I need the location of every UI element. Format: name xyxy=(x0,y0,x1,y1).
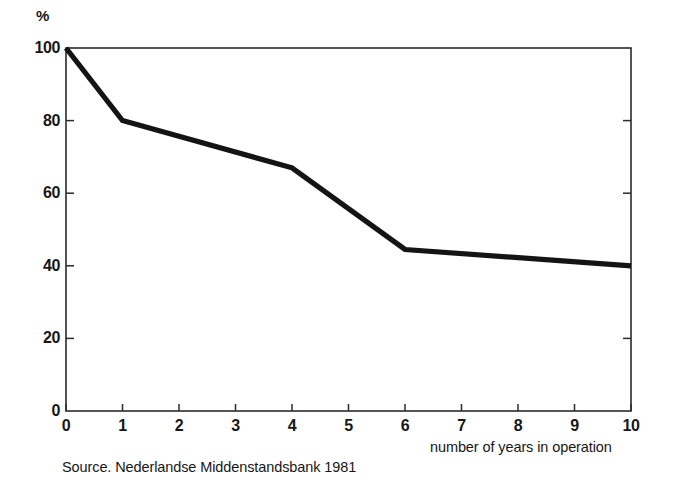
x-axis-tick-label: 10 xyxy=(611,418,651,434)
x-axis-tick-label: 2 xyxy=(159,418,199,434)
x-axis-tick-labels: 012345678910 xyxy=(0,0,673,485)
x-axis-tick-label: 4 xyxy=(272,418,312,434)
x-axis-tick-label: 8 xyxy=(498,418,538,434)
x-axis-tick-label: 6 xyxy=(385,418,425,434)
x-axis-tick-label: 3 xyxy=(216,418,256,434)
x-axis-tick-label: 1 xyxy=(103,418,143,434)
x-axis-tick-label: 7 xyxy=(442,418,482,434)
chart-figure: % 020406080100 012345678910 number of ye… xyxy=(0,0,673,485)
x-axis-tick-label: 9 xyxy=(555,418,595,434)
source-caption: Source. Nederlandse Middenstandsbank 198… xyxy=(62,460,356,475)
x-axis-title: number of years in operation xyxy=(430,440,612,455)
x-axis-tick-label: 0 xyxy=(46,418,86,434)
x-axis-tick-label: 5 xyxy=(329,418,369,434)
